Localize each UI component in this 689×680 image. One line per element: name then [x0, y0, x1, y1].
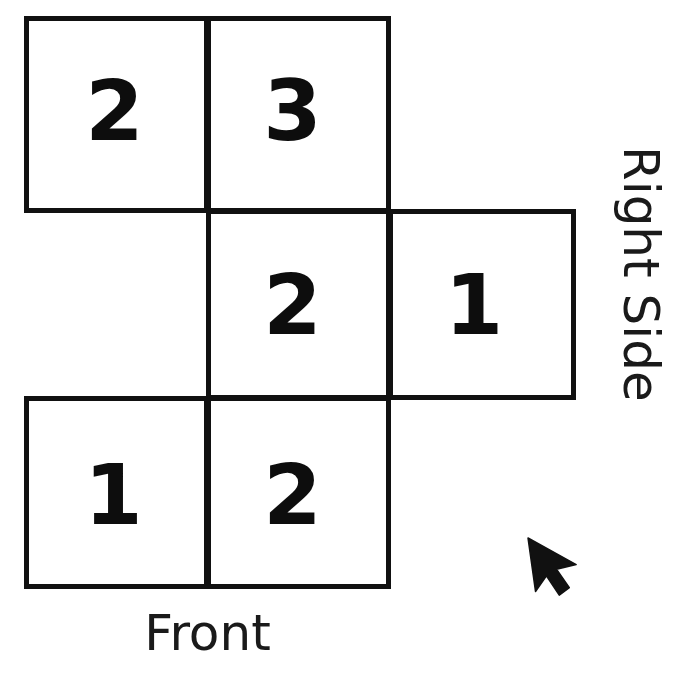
net-cell-digit: 2	[85, 69, 143, 153]
net-cell-top-middle: 3	[206, 16, 391, 213]
net-cell-bottom-left: 1	[24, 396, 209, 589]
net-cell-middle: 2	[206, 209, 391, 400]
arrow-pointer-icon	[520, 530, 600, 610]
net-cell-digit: 3	[263, 69, 321, 153]
net-cell-digit: 1	[84, 453, 142, 537]
front-label: Front	[0, 606, 415, 661]
net-cell-top-left: 2	[24, 16, 209, 213]
net-cell-right: 1	[388, 209, 576, 400]
net-cell-digit: 1	[445, 263, 503, 347]
diagram-canvas: 2 3 2 1 1 2 Front Right Side	[0, 0, 689, 680]
net-cell-bottom-middle: 2	[206, 396, 391, 589]
net-cell-digit: 2	[263, 453, 321, 537]
net-cell-digit: 2	[263, 263, 321, 347]
right-side-label: Right Side	[615, 146, 667, 456]
